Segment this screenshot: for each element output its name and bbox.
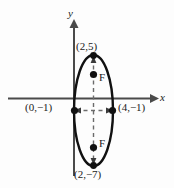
x-axis-arrow-icon bbox=[150, 94, 159, 103]
label-x-axis: x bbox=[160, 92, 165, 103]
y-axis-arrow-icon bbox=[70, 19, 79, 28]
point-right-co-vertex bbox=[109, 107, 116, 114]
label-top-vertex: (2,5) bbox=[76, 41, 97, 52]
point-focus-upper bbox=[90, 71, 97, 78]
point-focus-lower bbox=[90, 144, 97, 151]
label-focus-upper: F bbox=[99, 72, 105, 83]
label-right-co-vertex: (4,−1) bbox=[118, 102, 145, 113]
label-left-co-vertex: (0,−1) bbox=[25, 102, 52, 113]
label-bottom-vertex: (2,−7) bbox=[74, 169, 101, 180]
figure-canvas bbox=[0, 0, 174, 188]
point-left-co-vertex bbox=[71, 107, 78, 114]
ellipse-figure: (2,5) (0,−1) (4,−1) (2,−7) y x F F bbox=[0, 0, 174, 188]
label-focus-lower: F bbox=[99, 138, 105, 149]
point-top-vertex bbox=[90, 52, 97, 59]
label-y-axis: y bbox=[68, 8, 73, 19]
